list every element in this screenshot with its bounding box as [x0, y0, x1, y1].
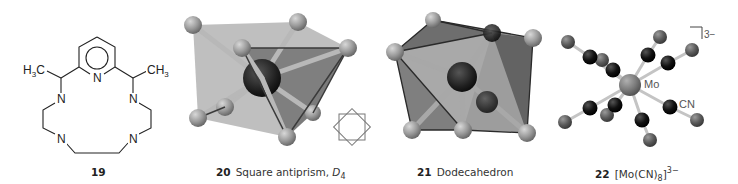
amine-nitrogen-upper-left: N	[56, 93, 67, 105]
figure-21-caption: 21Dodecahedron	[417, 166, 513, 178]
methyl-left-label: H3C	[22, 64, 46, 81]
mo-atom-label: Mo	[644, 78, 659, 90]
macrocycle-structure-drawing	[0, 0, 185, 184]
figure-21: 21Dodecahedron	[380, 0, 550, 184]
charge-label: 3−	[704, 29, 715, 40]
figure-20-caption: 20Square antiprism, D4	[216, 166, 346, 181]
symmetry-subscript: 4	[340, 172, 345, 181]
caption-text: Dodecahedron	[437, 166, 514, 178]
pyridine-nitrogen-label: N	[92, 72, 103, 84]
dodecahedron-model	[380, 0, 550, 184]
square-antiprism-symbol-icon	[334, 109, 371, 146]
amine-nitrogen-lower-left: N	[56, 133, 67, 145]
methyl-right-label: CH3	[146, 64, 170, 81]
formula-prefix: [Mo(CN)	[615, 168, 658, 180]
figure-number: 19	[91, 166, 106, 178]
charge-bracket	[690, 27, 702, 39]
figure-20: 20Square antiprism, D4	[180, 0, 380, 184]
mo-cyanide-complex-model	[550, 0, 738, 184]
figure-22: Mo CN 3− 22[Mo(CN)8]3−	[550, 0, 738, 184]
figure-number: 21	[417, 166, 432, 178]
cn-ligand-label: CN	[679, 98, 695, 110]
amine-nitrogen-upper-right: N	[128, 93, 139, 105]
figure-number: 20	[216, 166, 231, 178]
figure-22-caption: 22[Mo(CN)8]3−	[595, 166, 679, 183]
figure-19: H3C CH3 N N N N N 19	[0, 0, 185, 184]
figure-number: 22	[595, 168, 610, 180]
formula-charge: 3−	[667, 166, 679, 175]
figure-19-caption: 19	[91, 166, 111, 178]
caption-text: Square antiprism,	[236, 166, 333, 178]
amine-nitrogen-lower-right: N	[128, 133, 139, 145]
square-antiprism-model	[180, 0, 380, 184]
